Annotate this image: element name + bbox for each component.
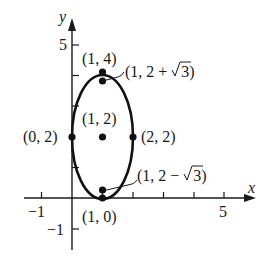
y-axis-arrow-icon [68,18,76,31]
label-focus-bottom: (1, 2 − 3) [137,167,207,185]
point-focus-bottom [99,186,106,193]
point-vertex-top [99,68,106,75]
point-covertex-left [68,133,75,140]
label-vertex-bottom: (1, 0) [82,208,117,226]
points [68,68,136,201]
label-focus-top-prefix: (1, 2 + [125,63,171,81]
y-tick-label-neg1: −1 [47,221,64,238]
label-focus-bottom-prefix: (1, 2 − [137,167,183,185]
label-center: (1, 2) [82,110,117,128]
point-center [99,133,106,140]
label-vertex-top: (1, 4) [82,50,117,68]
x-axis [24,192,256,202]
point-focus-top [99,77,106,84]
x-tick-label-neg1: −1 [28,203,45,220]
label-focus-top: (1, 2 + 3) [125,63,195,81]
point-vertex-bottom [99,194,106,201]
x-tick-label-5: 5 [219,203,227,220]
y-tick-label-5: 5 [59,36,67,53]
ellipse-diagram: x −1 5 y 5 −1 (1, 4) (1, 2 + 3) (1, 2) (… [0,0,272,261]
label-covertex-right: (2, 2) [141,128,176,146]
x-axis-label: x [247,179,255,196]
label-focus-bottom-suffix: 3) [193,167,206,185]
label-covertex-left: (0, 2) [23,128,58,146]
y-axis-label: y [57,8,67,26]
point-covertex-right [129,133,136,140]
label-focus-top-suffix: 3) [181,63,194,81]
